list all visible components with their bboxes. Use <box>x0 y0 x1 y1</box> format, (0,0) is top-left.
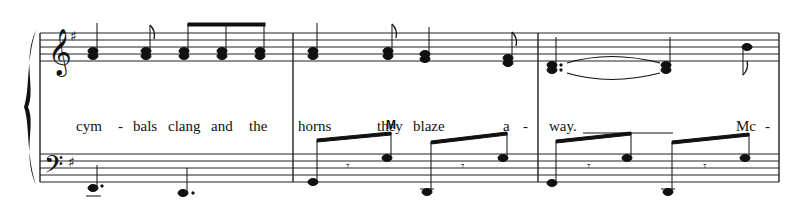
svg-text:𝄾: 𝄾 <box>703 159 706 173</box>
lyric-syllable: blaze <box>413 118 445 135</box>
svg-text:𝄾: 𝄾 <box>346 159 349 173</box>
lyric-syllable: way. <box>549 118 577 135</box>
svg-text:𝄾: 𝄾 <box>461 159 464 173</box>
bass-clef-icon: 𝄢 <box>44 150 63 185</box>
sharp-icon: ♯ <box>70 28 77 44</box>
treble-clef-icon: 𝄞 <box>48 28 72 77</box>
lyric-hyphen: - <box>523 118 528 135</box>
lyric-syllable: the <box>249 118 267 135</box>
lyric-hyphen: - <box>765 118 770 135</box>
lyric-syllable: and <box>211 118 233 135</box>
lyric-syllable: Mc <box>736 118 756 135</box>
brace-icon <box>24 30 36 185</box>
lyric-syllable: clang <box>168 118 200 135</box>
svg-text:𝄾: 𝄾 <box>587 159 590 173</box>
lyric-syllable: a <box>503 118 510 135</box>
lyric-syllable: horns <box>298 118 331 135</box>
lyric-syllable: cym <box>76 118 102 135</box>
lyric-hyphen: - <box>118 118 123 135</box>
music-score: 𝄞 ♯ 𝄢 ♯ 𝄾 𝄾 𝄾 <box>0 0 793 214</box>
bass-staff <box>40 154 779 182</box>
sharp-icon: ♯ <box>68 154 75 170</box>
rehearsal-marking: M <box>386 118 396 132</box>
bass-notes: 𝄾 𝄾 𝄾 𝄾 <box>86 132 750 197</box>
lyric-syllable: bals <box>133 118 157 135</box>
